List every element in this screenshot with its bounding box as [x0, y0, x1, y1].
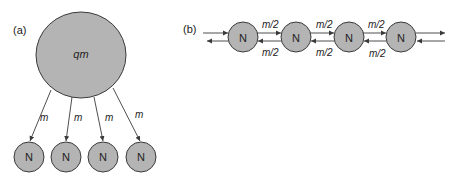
- chain-node-1-label: N: [239, 32, 247, 44]
- leaf-node-2: N: [51, 142, 81, 172]
- panel-b-label: (b): [183, 23, 196, 35]
- panel-a-label: (a): [13, 24, 26, 36]
- back-label-2: m/2: [316, 47, 333, 58]
- chain-node-3-label: N: [345, 32, 353, 44]
- chain-node-2-label: N: [292, 32, 300, 44]
- hub-label: qm: [73, 48, 88, 60]
- fwd-label-2: m/2: [316, 19, 333, 30]
- fwd-label-3: m/2: [368, 19, 385, 30]
- fwd-label-1: m/2: [262, 19, 279, 30]
- leaf-node-4-label: N: [137, 151, 145, 163]
- back-label-3: m/2: [369, 48, 386, 59]
- edge-a-2: [66, 97, 72, 141]
- edge-a-2-label: m: [74, 112, 82, 123]
- chain-node-4: N: [386, 22, 416, 52]
- panel-a: (a) qm m m m m N N N N: [13, 12, 156, 172]
- leaf-node-3: N: [88, 142, 118, 172]
- chain-node-2: N: [281, 22, 311, 52]
- hub-node: qm: [36, 12, 126, 98]
- edge-a-3: [94, 97, 103, 141]
- back-label-1: m/2: [262, 47, 279, 58]
- edge-a-1-label: m: [40, 112, 48, 123]
- leaf-node-2-label: N: [62, 151, 70, 163]
- diagram-canvas: (a) qm m m m m N N N N (b): [0, 0, 455, 181]
- chain-node-3: N: [334, 22, 364, 52]
- chain-node-4-label: N: [397, 32, 405, 44]
- chain-node-1: N: [228, 22, 258, 52]
- leaf-node-1: N: [14, 142, 44, 172]
- panel-b: (b) m/2 m/2 m/2 m/2 m/2 m/2 N N N: [183, 19, 445, 59]
- leaf-node-1-label: N: [25, 151, 33, 163]
- leaf-node-4: N: [126, 142, 156, 172]
- edge-a-4-label: m: [135, 109, 143, 120]
- leaf-node-3-label: N: [99, 151, 107, 163]
- edge-a-3-label: m: [105, 112, 113, 123]
